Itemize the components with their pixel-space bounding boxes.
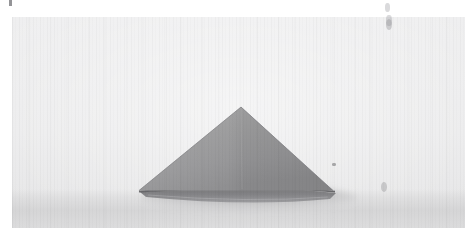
page-root: [0, 0, 475, 243]
speck-right-of-triangle: [332, 163, 336, 166]
smudge-bottom-right: [381, 182, 387, 192]
photograph: [12, 17, 465, 228]
smudge-top-right-2: [386, 15, 392, 26]
paper-triangle-object: [12, 17, 465, 228]
speck-top-left: [9, 0, 12, 6]
triangle-facet-shading: [139, 107, 333, 191]
smudge-top-right: [385, 3, 390, 12]
